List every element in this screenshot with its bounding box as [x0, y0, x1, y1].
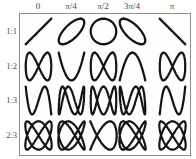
lissajous-path-2-3-π: [159, 121, 186, 149]
lissajous-curve-svg: [156, 119, 189, 152]
lissajous-path-1-3-π: [159, 86, 185, 114]
lissajous-cell-1-1-col4: [156, 15, 189, 48]
column-header-4: π: [170, 1, 175, 11]
lissajous-cell-2-3-col0: [22, 119, 55, 152]
lissajous-curve-svg: [55, 15, 88, 48]
lissajous-curve-svg: [116, 84, 149, 117]
lissajous-cell-1-3-col3: [116, 84, 149, 117]
lissajous-path-2-3-π/2: [90, 121, 117, 150]
lissajous-path-2-3-3π/4: [119, 121, 146, 150]
lissajous-path-2-3-π/4: [58, 121, 85, 150]
lissajous-path-1-3-3π/4: [119, 86, 145, 114]
lissajous-curve-svg: [55, 50, 88, 83]
lissajous-path-1-3-π/4: [58, 86, 84, 114]
lissajous-path-1-2-π: [159, 52, 185, 80]
row-header-1: 1:2: [0, 61, 17, 71]
lissajous-path-1-1-0: [25, 18, 51, 44]
lissajous-curve-svg: [116, 50, 149, 83]
lissajous-path-1-3-0: [25, 86, 51, 114]
lissajous-curve-svg: [156, 15, 189, 48]
lissajous-curve-svg: [116, 15, 149, 48]
lissajous-curve-svg: [22, 50, 55, 83]
lissajous-path-1-2-π/4: [58, 52, 84, 80]
lissajous-cell-2-3-col4: [156, 119, 189, 152]
lissajous-cell-1-2-col3: [116, 50, 149, 83]
lissajous-cell-1-2-col0: [22, 50, 55, 83]
lissajous-curve-svg: [55, 84, 88, 117]
lissajous-path-1-2-π/2: [90, 52, 116, 80]
lissajous-cell-2-3-col3: [116, 119, 149, 152]
lissajous-curve-svg: [156, 50, 189, 83]
lissajous-cell-1-3-col4: [156, 84, 189, 117]
column-header-1: π/4: [65, 1, 77, 11]
lissajous-curve-svg: [55, 119, 88, 152]
column-header-2: π/2: [97, 1, 109, 11]
lissajous-cell-1-1-col3: [116, 15, 149, 48]
lissajous-curve-svg: [156, 84, 189, 117]
lissajous-path-1-2-3π/4: [119, 52, 145, 80]
lissajous-cell-1-2-col1: [55, 50, 88, 83]
lissajous-path-1-1-π/4: [58, 18, 84, 44]
lissajous-cell-1-3-col0: [22, 84, 55, 117]
lissajous-curve-svg: [22, 119, 55, 152]
lissajous-cell-1-3-col1: [55, 84, 88, 117]
lissajous-figure: 0π/4π/23π/4π 1:11:21:32:3: [0, 0, 196, 159]
lissajous-curve-svg: [22, 15, 55, 48]
lissajous-path-1-3-π/2: [90, 86, 116, 114]
lissajous-path-2-3-0: [25, 121, 52, 150]
lissajous-cell-1-1-col0: [22, 15, 55, 48]
lissajous-cell-2-3-col1: [55, 119, 88, 152]
lissajous-curve-svg: [116, 119, 149, 152]
column-header-0: 0: [36, 1, 41, 11]
column-header-3: 3π/4: [124, 1, 140, 11]
lissajous-path-1-1-3π/4: [119, 18, 145, 44]
lissajous-curve-svg: [22, 84, 55, 117]
lissajous-path-1-1-π: [159, 18, 185, 44]
lissajous-path-1-2-0: [25, 52, 51, 80]
lissajous-path-1-1-π/2: [90, 18, 116, 44]
row-header-2: 1:3: [0, 95, 17, 105]
row-header-3: 2:3: [0, 130, 17, 140]
lissajous-cell-1-1-col1: [55, 15, 88, 48]
row-header-0: 1:1: [0, 26, 17, 36]
lissajous-cell-1-2-col4: [156, 50, 189, 83]
